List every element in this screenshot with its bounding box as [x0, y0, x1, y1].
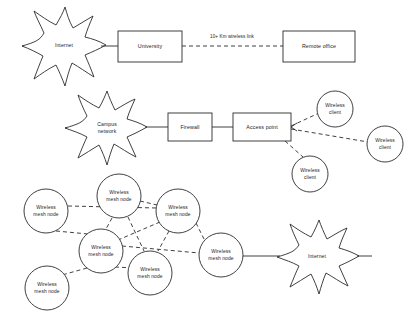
mesh-node-1-label-line2: mesh node: [33, 212, 58, 217]
mesh-node-7-label-line2: mesh node: [34, 289, 59, 294]
node-remote-office: Remote office: [283, 31, 355, 62]
edge-mesh-1-to-mesh-4: [56, 231, 88, 234]
wireless-client-1-shape: [317, 91, 353, 127]
node-mesh-7: Wireless mesh node: [25, 266, 69, 310]
edge-access-point-to-client-3: [285, 141, 303, 157]
wireless-link-label: 10+ Km wireless link: [210, 34, 255, 39]
mesh-node-3-label-line1: Wireless: [168, 205, 188, 210]
node-internet-bottom: Internet: [277, 220, 359, 294]
edge-mesh-4-to-mesh-7: [62, 268, 87, 275]
mesh-node-2-shape: [97, 174, 141, 218]
access-point-label: Access point: [246, 124, 278, 130]
node-wireless-client-1: Wireless client: [317, 91, 353, 127]
wireless-client-3-shape: [292, 156, 328, 192]
wireless-client-2-shape: [367, 126, 403, 162]
node-wireless-client-2: Wireless client: [367, 126, 403, 162]
edge-access-point-to-client-2: [291, 129, 368, 142]
remote-office-label: Remote office: [302, 43, 336, 49]
wireless-client-2-label-line1: Wireless: [375, 138, 395, 143]
university-label: University: [138, 43, 163, 49]
node-firewall: Firewall: [168, 113, 212, 141]
wireless-client-1-label-line1: Wireless: [325, 103, 345, 108]
network-diagram: Internet University 10+ Km wireless link…: [0, 0, 417, 323]
wireless-client-2-label-line2: client: [379, 145, 392, 150]
node-mesh-4: Wireless mesh node: [79, 229, 123, 273]
mesh-node-2-label-line1: Wireless: [109, 190, 129, 195]
node-campus-network: Campus network: [65, 91, 147, 165]
edge-mesh-2-to-mesh-5: [128, 217, 144, 251]
mesh-node-2-label-line2: mesh node: [106, 197, 131, 202]
mesh-node-7-shape: [25, 266, 69, 310]
edge-mesh-2-to-mesh-4: [106, 218, 112, 229]
node-mesh-6: Wireless mesh node: [199, 233, 243, 277]
edge-mesh-3-to-mesh-6: [196, 223, 205, 241]
mesh-node-5-label-line1: Wireless: [140, 267, 160, 272]
edge-mesh-3-to-mesh-5: [158, 231, 169, 251]
node-mesh-3: Wireless mesh node: [156, 189, 200, 233]
mesh-node-6-label-line2: mesh node: [208, 256, 233, 261]
mesh-node-3-shape: [156, 189, 200, 233]
wireless-client-3-label-line1: Wireless: [300, 168, 320, 173]
internet-bottom-label: Internet: [308, 253, 327, 259]
node-mesh-5: Wireless mesh node: [128, 251, 172, 295]
mesh-node-7-label-line1: Wireless: [37, 282, 57, 287]
mesh-node-3-label-line2: mesh node: [165, 212, 190, 217]
mesh-node-1-shape: [24, 189, 68, 233]
edge-mesh-4-to-mesh-6: [122, 246, 199, 253]
mesh-node-5-label-line2: mesh node: [137, 274, 162, 279]
node-mesh-2: Wireless mesh node: [97, 174, 141, 218]
node-mesh-1: Wireless mesh node: [24, 189, 68, 233]
diagram-canvas: Internet University 10+ Km wireless link…: [0, 0, 417, 323]
mesh-node-1-label-line1: Wireless: [36, 205, 56, 210]
wireless-client-3-label-line2: client: [304, 175, 317, 180]
mesh-node-6-shape: [199, 233, 243, 277]
edge-mesh-3-to-mesh-4: [118, 222, 160, 240]
mesh-node-6-label-line1: Wireless: [211, 249, 231, 254]
node-internet-top: Internet: [22, 7, 106, 86]
firewall-label: Firewall: [180, 124, 199, 130]
edge-mesh-2-to-mesh-3: [140, 201, 157, 205]
node-university: University: [118, 31, 182, 62]
mesh-node-5-shape: [128, 251, 172, 295]
campus-network-label-line2: network: [98, 128, 117, 134]
mesh-node-4-label-line2: mesh node: [88, 252, 113, 257]
mesh-node-4-shape: [79, 229, 123, 273]
internet-top-label: Internet: [55, 42, 74, 48]
mesh-node-4-label-line1: Wireless: [91, 245, 111, 250]
wireless-client-1-label-line2: client: [329, 110, 342, 115]
node-access-point: Access point: [233, 113, 291, 141]
node-wireless-client-3: Wireless client: [292, 156, 328, 192]
campus-network-label-line1: Campus: [97, 121, 117, 127]
